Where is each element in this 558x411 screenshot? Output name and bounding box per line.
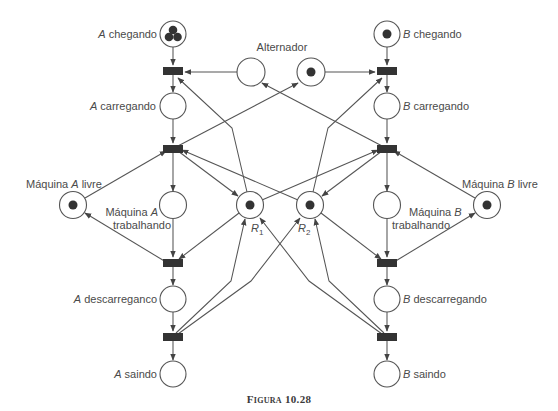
- place-r1[interactable]: [237, 192, 264, 219]
- place-b-carregando[interactable]: [374, 93, 400, 119]
- places: [60, 21, 501, 387]
- arcs: [85, 47, 475, 360]
- label-maquina-b-livre: Máquina B livre: [462, 178, 538, 190]
- place-a-chegando[interactable]: [160, 21, 186, 47]
- arc-r1-to-tB2: [262, 150, 378, 200]
- label-a-chegando: A chegando: [97, 28, 157, 40]
- label-maquina-a-trabalhando-line2: trabalhando: [113, 219, 171, 231]
- place-maquina-a-trabalhando[interactable]: [160, 192, 187, 219]
- label-a-saindo: A saindo: [113, 368, 157, 380]
- label-b-carregando: B carregando: [403, 100, 469, 112]
- figure-caption: Figura 10.28: [247, 393, 312, 405]
- label-r2: R2: [298, 222, 311, 237]
- label-a-carregando: A carregando: [89, 100, 156, 112]
- arc-tB4-to-r1: [260, 218, 382, 334]
- token: [306, 201, 315, 210]
- label-b-saindo: B saindo: [403, 368, 446, 380]
- label-a-descarregando: A descarreganco: [73, 293, 157, 305]
- arc-tB4-to-r2: [315, 219, 384, 333]
- place-a-saindo[interactable]: [160, 361, 186, 387]
- token: [307, 68, 316, 77]
- arc-tA2-to-r1: [178, 151, 238, 196]
- arc-tB2-to-r2: [322, 151, 382, 196]
- place-r2[interactable]: [297, 192, 324, 219]
- transition-tB2[interactable]: [377, 145, 397, 153]
- arc-r2-to-tB1: [313, 78, 382, 192]
- transition-tA2[interactable]: [163, 145, 183, 153]
- arc-r1-to-tA1: [178, 78, 247, 192]
- transition-tB4[interactable]: [377, 333, 397, 341]
- arc-maquina-b-livre-to-tB2: [394, 151, 475, 198]
- place-maquina-b-trabalhando[interactable]: [374, 192, 401, 219]
- place-alternador-right[interactable]: [297, 58, 325, 86]
- token: [69, 201, 78, 210]
- token: [246, 201, 255, 210]
- place-a-carregando[interactable]: [160, 93, 186, 119]
- place-alternador-left[interactable]: [237, 58, 265, 86]
- transitions: [163, 67, 397, 341]
- token: [483, 201, 492, 210]
- transition-tA4[interactable]: [163, 333, 183, 341]
- token: [383, 30, 392, 39]
- place-maquina-a-livre[interactable]: [60, 192, 87, 219]
- place-b-descarregando[interactable]: [374, 286, 400, 312]
- label-maquina-a-trabalhando-line1: Máquina A: [105, 206, 158, 218]
- label-b-chegando: B chegando: [403, 28, 462, 40]
- transition-tB1[interactable]: [377, 67, 397, 75]
- arc-r2-to-tB3: [321, 213, 381, 259]
- transition-tA1[interactable]: [163, 67, 183, 75]
- place-b-chegando[interactable]: [374, 21, 400, 47]
- labels: A chegando A carregando Máquina A livre …: [26, 28, 538, 405]
- label-r1: R1: [251, 222, 264, 237]
- label-maquina-b-trabalhando-line2: trabalhando: [392, 219, 450, 231]
- label-maquina-b-trabalhando-line1: Máquina B: [409, 206, 462, 218]
- arc-tA4-to-r1: [176, 219, 245, 333]
- petri-net-figure: A chegando A carregando Máquina A livre …: [0, 0, 558, 411]
- token: [173, 33, 182, 42]
- place-maquina-b-livre[interactable]: [474, 192, 501, 219]
- arc-tA4-to-r2: [178, 218, 300, 334]
- petri-net-diagram: A chegando A carregando Máquina A livre …: [0, 0, 558, 411]
- transition-tB3[interactable]: [377, 259, 397, 267]
- arc-r1-to-tA3: [179, 213, 239, 259]
- place-b-saindo[interactable]: [374, 361, 400, 387]
- arc-maquina-a-livre-to-tA2: [85, 151, 166, 198]
- token: [165, 33, 174, 42]
- transition-tA3[interactable]: [163, 259, 183, 267]
- label-b-descarregando: B descarregando: [403, 293, 487, 305]
- place-a-descarregando[interactable]: [160, 286, 186, 312]
- label-maquina-a-livre: Máquina A livre: [26, 178, 102, 190]
- label-alternador: Alternador: [257, 41, 308, 53]
